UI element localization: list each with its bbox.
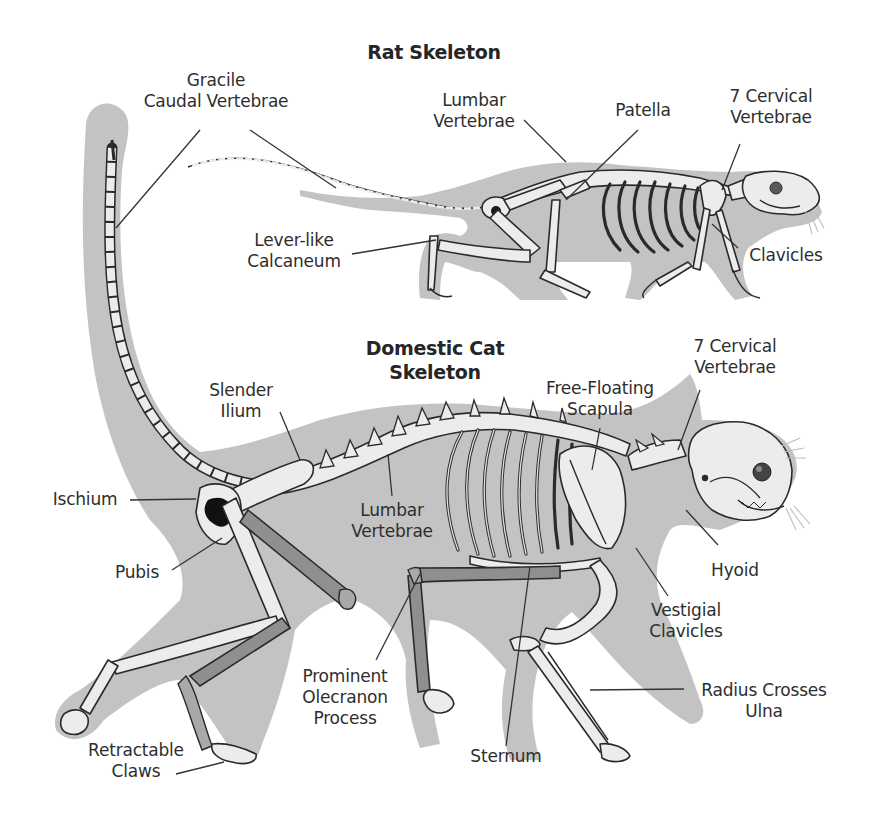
label-rat-clavicles: Clavicles (736, 245, 836, 266)
leader-rat-lumbar (524, 120, 566, 162)
label-slender-ilium: Slender Ilium (196, 380, 286, 422)
label-pubis: Pubis (102, 562, 172, 583)
rat-skeleton-title: Rat Skeleton (354, 40, 514, 64)
label-ischium: Ischium (40, 489, 130, 510)
label-rat-7-cervical-vertebrae: 7 Cervical Vertebrae (712, 86, 830, 128)
label-rat-lumbar-vertebrae: Lumbar Vertebrae (422, 90, 526, 132)
label-hyoid: Hyoid (700, 560, 770, 581)
skeleton-comparison-diagram: Rat Skeleton Domestic Cat Skeleton Graci… (0, 0, 878, 828)
label-cat-lumbar-vertebrae: Lumbar Vertebrae (340, 500, 444, 542)
label-vestigial-clavicles: Vestigial Clavicles (636, 600, 736, 642)
label-sternum: Sternum (456, 746, 556, 767)
label-gracile-caudal-vertebrae: Gracile Caudal Vertebrae (124, 70, 308, 112)
label-rat-patella: Patella (598, 100, 688, 121)
leader-gracile-to-cat-tail (116, 130, 200, 228)
label-cat-7-cervical-vertebrae: 7 Cervical Vertebrae (676, 336, 794, 378)
label-radius-crosses-ulna: Radius Crosses Ulna (684, 680, 844, 722)
leader-gracile-to-rat-tail (250, 130, 336, 188)
label-lever-like-calcaneum: Lever-like Calcaneum (238, 230, 350, 272)
label-prominent-olecranon-process: Prominent Olecranon Process (290, 666, 400, 729)
label-retractable-claws: Retractable Claws (74, 740, 198, 782)
cat-skeleton-title: Domestic Cat Skeleton (350, 336, 520, 384)
label-free-floating-scapula: Free-Floating Scapula (532, 378, 668, 420)
